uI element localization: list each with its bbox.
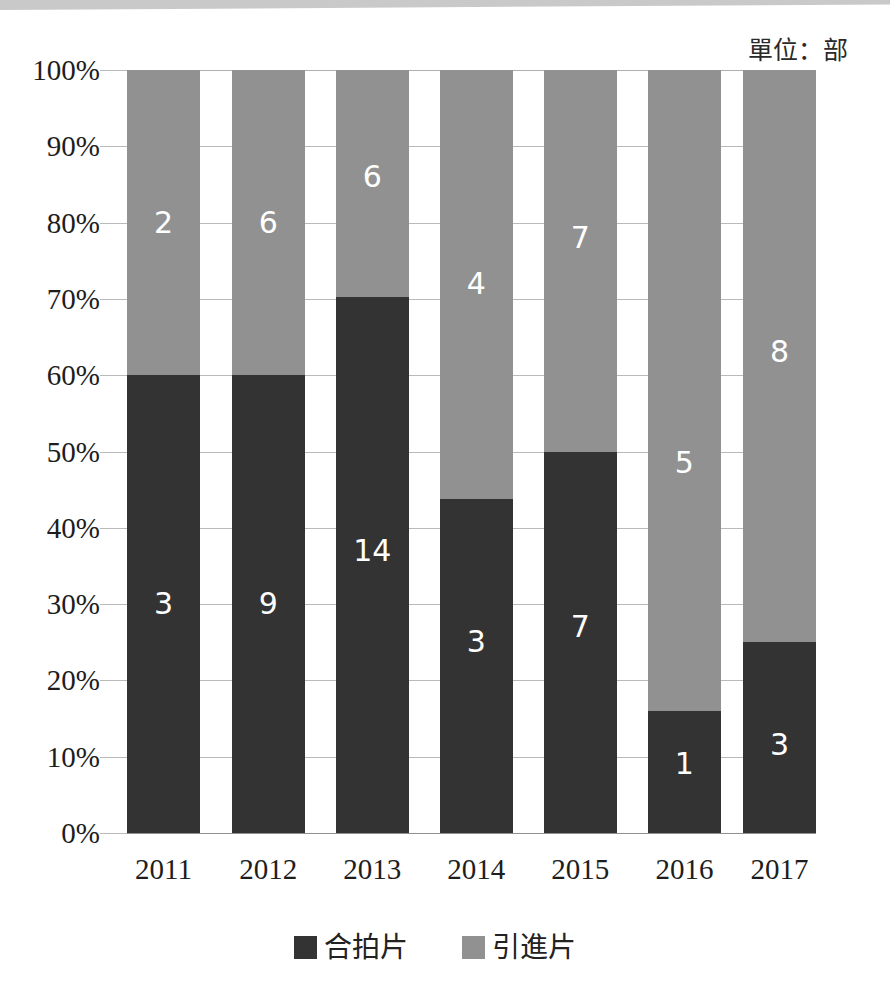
y-tick-label: 10%	[5, 742, 100, 771]
bar-value-label: 8	[770, 337, 789, 367]
bar-value-label: 6	[363, 162, 382, 192]
bar-value-label: 9	[259, 589, 278, 619]
tick-stub-100pct	[100, 70, 127, 71]
bar-group-2012[interactable]: 96	[232, 70, 305, 833]
bar-segment-coproduction-2012[interactable]: 9	[232, 375, 305, 833]
bar-segment-imported-2011[interactable]: 2	[127, 70, 200, 375]
y-tick-label: 70%	[5, 284, 100, 313]
bar-value-label: 6	[259, 208, 278, 238]
y-tick-label: 50%	[5, 437, 100, 466]
bar-value-label: 1	[675, 749, 694, 779]
tick-stub-30pct	[100, 604, 127, 605]
bar-segment-coproduction-2014[interactable]: 3	[440, 499, 513, 833]
x-tick-label-2012: 2012	[232, 855, 305, 884]
bar-segment-coproduction-2017[interactable]: 3	[743, 642, 816, 833]
gridline-0pct	[127, 833, 816, 834]
bar-value-label: 14	[353, 536, 391, 566]
bar-segment-imported-2017[interactable]: 8	[743, 70, 816, 642]
tick-stub-90pct	[100, 146, 127, 147]
tick-stub-0pct	[100, 833, 127, 834]
bar-group-2015[interactable]: 77	[544, 70, 617, 833]
chart-legend: 合拍片引進片	[0, 925, 870, 970]
bar-segment-imported-2013[interactable]: 6	[336, 70, 409, 297]
x-tick-label-2011: 2011	[127, 855, 200, 884]
x-tick-label-2013: 2013	[336, 855, 409, 884]
bar-segment-coproduction-2011[interactable]: 3	[127, 375, 200, 833]
y-tick-label: 100%	[5, 56, 100, 85]
legend-swatch-icon	[462, 936, 485, 959]
bar-value-label: 5	[675, 448, 694, 478]
bar-value-label: 3	[154, 589, 173, 619]
tick-stub-40pct	[100, 528, 127, 529]
x-axis-labels: 2011201220132014201520162017	[127, 855, 816, 900]
tick-stub-10pct	[100, 757, 127, 758]
bar-value-label: 4	[467, 269, 486, 299]
y-tick-label: 0%	[5, 819, 100, 848]
bar-segment-imported-2015[interactable]: 7	[544, 70, 617, 452]
bar-value-label: 7	[571, 612, 590, 642]
x-tick-label-2016: 2016	[648, 855, 721, 884]
x-tick-label-2017: 2017	[743, 855, 816, 884]
y-tick-label: 90%	[5, 132, 100, 161]
tick-stub-80pct	[100, 223, 127, 224]
tick-stub-70pct	[100, 299, 127, 300]
y-tick-label: 40%	[5, 513, 100, 542]
bar-group-2014[interactable]: 34	[440, 70, 513, 833]
legend-item-coproduction[interactable]: 合拍片	[294, 934, 408, 962]
plot-area: 329614634771538	[127, 70, 816, 833]
legend-swatch-icon	[294, 936, 317, 959]
legend-label: 合拍片	[324, 934, 408, 962]
legend-item-imported[interactable]: 引進片	[462, 934, 576, 962]
bar-group-2016[interactable]: 15	[648, 70, 721, 833]
y-tick-label: 80%	[5, 208, 100, 237]
bar-segment-imported-2014[interactable]: 4	[440, 70, 513, 499]
bar-group-2011[interactable]: 32	[127, 70, 200, 833]
tick-stub-50pct	[100, 452, 127, 453]
bar-segment-coproduction-2016[interactable]: 1	[648, 711, 721, 833]
y-axis-labels: 0%10%20%30%40%50%60%70%80%90%100%	[0, 70, 100, 833]
tick-stub-20pct	[100, 680, 127, 681]
x-tick-label-2014: 2014	[440, 855, 513, 884]
x-tick-label-2015: 2015	[544, 855, 617, 884]
bar-segment-imported-2016[interactable]: 5	[648, 70, 721, 711]
bar-segment-coproduction-2015[interactable]: 7	[544, 452, 617, 834]
bar-segment-coproduction-2013[interactable]: 14	[336, 297, 409, 833]
y-tick-label: 30%	[5, 590, 100, 619]
bar-value-label: 7	[571, 223, 590, 253]
bar-group-2013[interactable]: 146	[336, 70, 409, 833]
tick-stub-60pct	[100, 375, 127, 376]
bar-value-label: 3	[770, 730, 789, 760]
bar-segment-imported-2012[interactable]: 6	[232, 70, 305, 375]
y-tick-label: 20%	[5, 666, 100, 695]
bar-value-label: 3	[467, 627, 486, 657]
y-tick-label: 60%	[5, 361, 100, 390]
legend-label: 引進片	[492, 934, 576, 962]
bar-group-2017[interactable]: 38	[743, 70, 816, 833]
bar-value-label: 2	[154, 208, 173, 238]
